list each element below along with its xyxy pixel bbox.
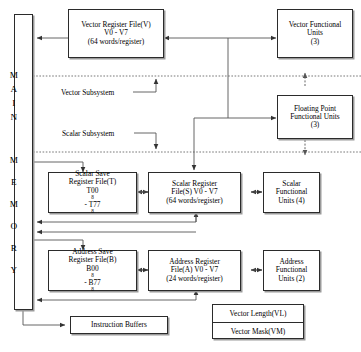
vector-functional-units-line3: (3) [311, 38, 320, 46]
vector-subsystem-label: Vector Subsystem [61, 88, 114, 97]
address-functional-units-box: Address Functional Units (2) [263, 250, 320, 291]
vector-register-file-line3: (64 words/register) [88, 38, 144, 46]
vector-register-file-box: Vector Register File(V) V0 - V7 (64 word… [68, 9, 164, 58]
vector-functional-units-box: Vector Functional Units (3) [277, 9, 353, 58]
address-register-line3: (24 words/register) [166, 275, 222, 283]
main-memory-letter-y: Y [4, 265, 24, 275]
diagram-canvas: M A I N M E M O R Y Vector Register File… [0, 0, 361, 352]
scalar-functional-line3: Units (4) [278, 197, 304, 205]
main-memory-letter-e: E [4, 177, 24, 187]
scalar-register-line3: (64 words/register) [166, 197, 222, 205]
main-memory-letter-n: N [4, 112, 24, 122]
main-memory-letter-r: R [4, 243, 24, 253]
address-save-sub2: 8 [84, 287, 101, 293]
vector-length-box: Vector Length(VL) [213, 305, 303, 322]
address-register-file-box: Address Register File(A) V0 - V7 (24 wor… [148, 250, 241, 291]
vector-mask-box: Vector Mask(VM) [213, 322, 303, 339]
instruction-buffers-box: Instruction Buffers [70, 316, 168, 334]
vector-length-mask-group: Vector Length(VL) Vector Mask(VM) [212, 304, 304, 339]
address-save-register-file-box: Address Save Register File(B) B008 - B77… [48, 250, 137, 291]
scalar-save-register-file-box: Scalar Save Register File(T) T008 - T778 [48, 172, 137, 213]
main-memory-letter-a: A [4, 84, 24, 94]
floating-point-line3: (3) [311, 121, 320, 129]
floating-point-functional-units-box: Floating Point Functional Units (3) [277, 95, 353, 139]
scalar-register-file-box: Scalar Register File(S) V0 - V7 (64 word… [148, 172, 241, 213]
instruction-buffers-label: Instruction Buffers [91, 321, 147, 329]
main-memory-letter-m1: M [4, 70, 24, 80]
main-memory-letter-o: O [4, 221, 24, 231]
main-memory-letter-i: I [4, 98, 24, 108]
scalar-save-sub2: 8 [84, 209, 100, 215]
scalar-functional-units-box: Scalar Functional Units (4) [263, 172, 320, 213]
address-functional-line3: Units (2) [278, 275, 304, 283]
scalar-subsystem-label: Scalar Subsystem [62, 129, 114, 138]
main-memory-letter-m3: M [4, 199, 24, 209]
main-memory-letter-m2: M [4, 155, 24, 165]
scalar-save-line3: T008 - T778 [84, 187, 100, 215]
address-save-line3: B008 - B778 [84, 265, 101, 293]
